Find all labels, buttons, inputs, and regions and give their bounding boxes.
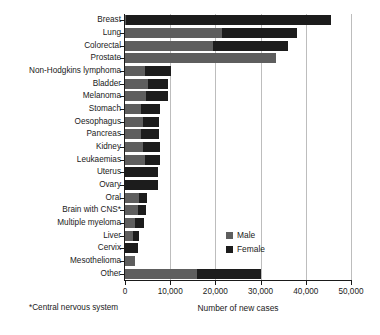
x-axis-tick-label: 50,000 xyxy=(338,287,363,297)
legend-item: Male xyxy=(226,229,265,241)
category-label: Prostate xyxy=(0,53,121,63)
category-label: Pancreas xyxy=(0,129,121,139)
category-label: Breast xyxy=(0,15,121,25)
y-axis-tick xyxy=(120,96,124,97)
bar-segment-male xyxy=(125,28,222,38)
bar-row xyxy=(125,193,351,203)
y-axis-tick xyxy=(120,122,124,123)
bar-row xyxy=(125,15,351,25)
category-label: Lung xyxy=(0,28,121,38)
category-axis-labels: BreastLungColorectalProstateNon-Hodgkins… xyxy=(0,14,121,280)
bar-row xyxy=(125,104,351,114)
bar-segment-male xyxy=(125,91,146,101)
x-axis-tick xyxy=(351,281,352,285)
bar-segment-female xyxy=(125,180,158,190)
bar-segment-male xyxy=(125,256,135,266)
bar-segment-male xyxy=(125,129,141,139)
y-axis-tick xyxy=(120,33,124,34)
category-label: Oral xyxy=(0,193,121,203)
bar-segment-female xyxy=(125,167,158,177)
y-axis-tick xyxy=(120,46,124,47)
bar-row xyxy=(125,117,351,127)
y-axis-tick xyxy=(120,248,124,249)
bar-row xyxy=(125,180,351,190)
bar-row xyxy=(125,167,351,177)
bar-segment-male xyxy=(125,79,148,89)
x-axis-tick-label: 10,000 xyxy=(158,287,183,297)
x-axis-title: Number of new cases xyxy=(125,303,351,313)
y-axis-tick xyxy=(120,198,124,199)
x-axis-tick-label: 0 xyxy=(123,287,128,297)
x-axis-tick-label: 40,000 xyxy=(293,287,318,297)
category-label: Oesophagus xyxy=(0,117,121,127)
bar-segment-female xyxy=(133,231,138,241)
bar-segment-female xyxy=(138,205,146,215)
y-axis-tick xyxy=(120,109,124,110)
category-label: Non-Hodgkins lymphoma xyxy=(0,66,121,76)
bar-segment-female xyxy=(213,41,288,51)
bar-row xyxy=(125,53,351,63)
y-axis-tick xyxy=(120,210,124,211)
y-axis-tick xyxy=(120,223,124,224)
bar-segment-female xyxy=(141,104,160,114)
legend-label: Female xyxy=(237,244,265,254)
bar-segment-male xyxy=(125,269,197,279)
bar-segment-female xyxy=(143,142,160,152)
bar-row xyxy=(125,218,351,228)
y-axis-tick xyxy=(120,84,124,85)
x-axis-tick xyxy=(261,281,262,285)
x-axis-line xyxy=(124,280,352,281)
category-label: Leukaemias xyxy=(0,155,121,165)
x-axis-tick xyxy=(170,281,171,285)
y-axis-tick xyxy=(120,147,124,148)
bar-row xyxy=(125,269,351,279)
bar-row xyxy=(125,155,351,165)
bar-segment-male xyxy=(125,117,143,127)
x-axis-tick xyxy=(215,281,216,285)
y-axis-tick xyxy=(120,172,124,173)
bar-segment-female xyxy=(135,218,143,228)
y-axis-tick xyxy=(120,58,124,59)
bar-segment-male xyxy=(125,53,276,63)
y-axis-tick xyxy=(120,185,124,186)
chart-legend: MaleFemale xyxy=(226,229,265,257)
category-label: Mesothelioma xyxy=(0,256,121,266)
bar-segment-female xyxy=(125,243,138,253)
bar-segment-female xyxy=(197,269,260,279)
bar-segment-female xyxy=(146,91,169,101)
category-label: Bladder xyxy=(0,79,121,89)
bar-segment-female xyxy=(141,129,160,139)
bar-segment-male xyxy=(125,205,138,215)
bar-segment-male xyxy=(125,231,133,241)
category-label: Brain with CNS* xyxy=(0,205,121,215)
bar-segment-male xyxy=(125,41,213,51)
bar-row xyxy=(125,205,351,215)
category-label: Multiple myeloma xyxy=(0,218,121,228)
bar-segment-female xyxy=(139,193,147,203)
bar-row xyxy=(125,28,351,38)
bar-row xyxy=(125,142,351,152)
gridline xyxy=(351,14,352,280)
legend-item: Female xyxy=(226,243,265,255)
category-label: Other xyxy=(0,269,121,279)
bar-segment-male xyxy=(125,142,143,152)
y-axis-line xyxy=(124,14,125,281)
category-label: Ovary xyxy=(0,180,121,190)
y-axis-tick xyxy=(120,20,124,21)
category-label: Colorectal xyxy=(0,41,121,51)
bar-row xyxy=(125,91,351,101)
chart-footnote: *Central nervous system xyxy=(29,303,118,312)
bar-row xyxy=(125,129,351,139)
y-axis-tick xyxy=(120,160,124,161)
bar-segment-male xyxy=(125,104,141,114)
bar-segment-female xyxy=(126,15,331,25)
bar-row xyxy=(125,66,351,76)
x-axis-tick-label: 30,000 xyxy=(248,287,273,297)
bar-segment-male xyxy=(125,193,139,203)
x-axis-tick xyxy=(125,281,126,285)
bar-row xyxy=(125,79,351,89)
category-label: Stomach xyxy=(0,104,121,114)
bar-segment-female xyxy=(148,79,168,89)
bar-segment-male xyxy=(125,218,135,228)
bar-segment-female xyxy=(145,66,171,76)
